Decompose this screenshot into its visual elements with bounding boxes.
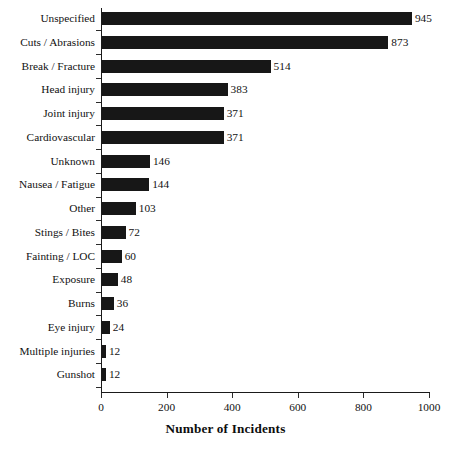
y-axis-tick (96, 78, 101, 79)
bar (102, 60, 271, 73)
x-axis-tick (363, 393, 364, 398)
bar-row: Joint injury371 (0, 107, 451, 120)
bar (102, 178, 149, 191)
bar-value-label: 383 (231, 80, 248, 98)
bar-chart-figure: Unspecified945Cuts / Abrasions873Break /… (0, 0, 451, 452)
category-label: Unknown (0, 152, 95, 170)
y-axis-tick (96, 292, 101, 293)
y-axis-tick (96, 102, 101, 103)
bar (102, 345, 106, 358)
bar-value-label: 60 (125, 247, 136, 265)
bar-row: Eye injury24 (0, 321, 451, 334)
category-label: Head injury (0, 80, 95, 98)
bar-value-label: 36 (117, 294, 128, 312)
category-label: Fainting / LOC (0, 247, 95, 265)
x-axis-tick (101, 393, 102, 398)
bar (102, 250, 122, 263)
y-axis-tick (96, 363, 101, 364)
bar (102, 321, 110, 334)
bar-value-label: 945 (415, 9, 432, 27)
bar-value-label: 12 (109, 342, 120, 360)
y-axis-tick (96, 268, 101, 269)
x-axis-tick (167, 393, 168, 398)
bar-value-label: 146 (153, 152, 170, 170)
category-label: Cardiovascular (0, 128, 95, 146)
x-axis-tick-label: 0 (98, 399, 104, 415)
y-axis-tick (96, 387, 101, 388)
bar-value-label: 24 (113, 318, 124, 336)
y-axis-tick (96, 125, 101, 126)
y-axis-tick (96, 220, 101, 221)
bar-row: Burns36 (0, 297, 451, 310)
category-label: Exposure (0, 270, 95, 288)
clipped-caption (0, 445, 451, 452)
y-axis-tick (96, 244, 101, 245)
bar-row: Nausea / Fatigue144 (0, 178, 451, 191)
bar-value-label: 12 (109, 365, 120, 383)
x-axis-tick-label: 600 (289, 399, 306, 415)
bar (102, 226, 126, 239)
category-label: Gunshot (0, 365, 95, 383)
bar (102, 107, 224, 120)
category-label: Burns (0, 294, 95, 312)
x-axis-tick-label: 200 (158, 399, 175, 415)
category-label: Eye injury (0, 318, 95, 336)
bar-row: Fainting / LOC60 (0, 250, 451, 263)
bar-value-label: 48 (121, 270, 132, 288)
y-axis-tick (96, 339, 101, 340)
bar (102, 297, 114, 310)
bar-row: Exposure48 (0, 273, 451, 286)
bar-value-label: 514 (274, 57, 291, 75)
y-axis-tick (96, 197, 101, 198)
category-label: Cuts / Abrasions (0, 33, 95, 51)
bar-row: Cuts / Abrasions873 (0, 36, 451, 49)
bar (102, 273, 118, 286)
bar-row: Head injury383 (0, 83, 451, 96)
bar-value-label: 72 (129, 223, 140, 241)
bar-value-label: 371 (227, 104, 244, 122)
bar-row: Stings / Bites72 (0, 226, 451, 239)
bar-row: Other103 (0, 202, 451, 215)
bar-value-label: 103 (139, 199, 156, 217)
y-axis-tick (96, 30, 101, 31)
category-label: Other (0, 199, 95, 217)
bar-row: Unspecified945 (0, 12, 451, 25)
x-axis-tick (232, 393, 233, 398)
x-axis-tick (429, 393, 430, 398)
x-axis-tick-label: 1000 (418, 399, 441, 415)
bar (102, 368, 106, 381)
x-axis-tick-label: 800 (355, 399, 372, 415)
bar (102, 36, 388, 49)
bar (102, 155, 150, 168)
bar-value-label: 144 (152, 175, 169, 193)
category-label: Nausea / Fatigue (0, 175, 95, 193)
bar (102, 12, 412, 25)
bar-row: Unknown146 (0, 155, 451, 168)
category-label: Stings / Bites (0, 223, 95, 241)
y-axis-tick (96, 315, 101, 316)
category-label: Unspecified (0, 9, 95, 27)
x-axis-tick (298, 393, 299, 398)
y-axis-tick (96, 149, 101, 150)
category-label: Multiple injuries (0, 342, 95, 360)
bar-row: Multiple injuries12 (0, 345, 451, 358)
category-label: Joint injury (0, 104, 95, 122)
bar-row: Break / Fracture514 (0, 60, 451, 73)
x-axis-tick-label: 400 (224, 399, 241, 415)
x-axis-line (101, 392, 430, 393)
y-axis-tick (96, 173, 101, 174)
bar-row: Cardiovascular371 (0, 131, 451, 144)
category-label: Break / Fracture (0, 57, 95, 75)
bar (102, 131, 224, 144)
bar-value-label: 371 (227, 128, 244, 146)
bar (102, 83, 228, 96)
bar (102, 202, 136, 215)
bar-row: Gunshot12 (0, 368, 451, 381)
y-axis-tick (96, 54, 101, 55)
bar-value-label: 873 (391, 33, 408, 51)
x-axis-title: Number of Incidents (0, 421, 451, 437)
